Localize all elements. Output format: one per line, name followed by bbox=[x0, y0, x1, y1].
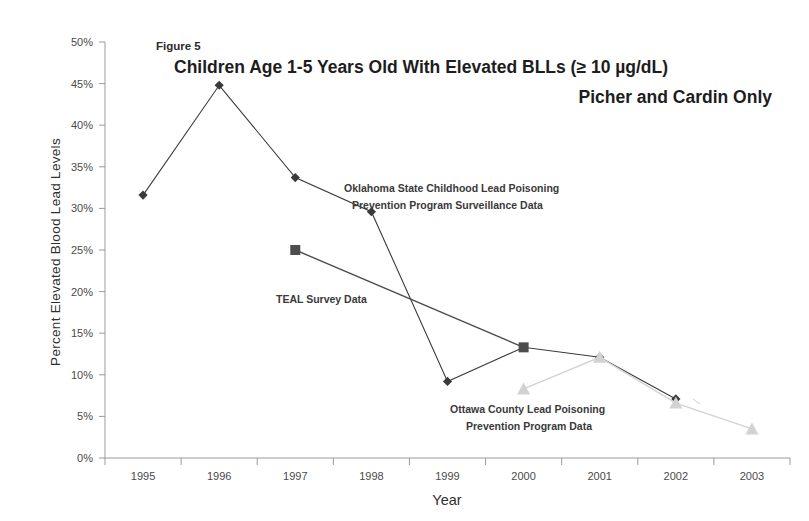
x-axis-tick-labels: 199519961997199819992000200120022003 bbox=[131, 470, 764, 482]
y-tick-label: 15% bbox=[71, 327, 93, 339]
chart-canvas: 0%5%10%15%20%25%30%35%40%45%50% 19951996… bbox=[0, 0, 809, 521]
x-tick-label: 2000 bbox=[511, 470, 535, 482]
ottawa-leader-line bbox=[693, 399, 700, 404]
data-point-marker bbox=[290, 245, 300, 255]
y-tick-label: 50% bbox=[71, 36, 93, 48]
figure-page: 0%5%10%15%20%25%30%35%40%45%50% 19951996… bbox=[0, 0, 809, 521]
x-tick-label: 1998 bbox=[359, 470, 383, 482]
annotation-oklahoma-line2: Prevention Program Surveillance Data bbox=[352, 199, 543, 211]
y-tick-label: 20% bbox=[71, 286, 93, 298]
x-tick-label: 1999 bbox=[435, 470, 459, 482]
series-line bbox=[143, 85, 676, 399]
y-tick-label: 0% bbox=[77, 452, 93, 464]
x-axis-ticks bbox=[105, 458, 790, 465]
series-layer bbox=[138, 81, 758, 435]
y-tick-label: 25% bbox=[71, 244, 93, 256]
annotation-oklahoma-line1: Oklahoma State Childhood Lead Poisoning bbox=[344, 182, 559, 194]
y-tick-label: 10% bbox=[71, 369, 93, 381]
y-tick-label: 5% bbox=[77, 410, 93, 422]
x-tick-label: 2002 bbox=[664, 470, 688, 482]
x-tick-label: 2003 bbox=[740, 470, 764, 482]
figure-subtitle: Picher and Cardin Only bbox=[578, 87, 772, 107]
y-axis-ticks bbox=[99, 42, 105, 458]
x-tick-label: 1996 bbox=[207, 470, 231, 482]
data-point-marker bbox=[669, 397, 682, 409]
figure-title: Children Age 1-5 Years Old With Elevated… bbox=[174, 57, 668, 77]
series-line bbox=[524, 357, 752, 429]
figure-number: Figure 5 bbox=[156, 40, 201, 52]
annotation-ottawa-line2: Prevention Program Data bbox=[466, 420, 592, 432]
data-point-marker bbox=[443, 377, 452, 386]
x-tick-label: 1997 bbox=[283, 470, 307, 482]
annotation-ottawa-line1: Ottawa County Lead Poisoning bbox=[450, 403, 605, 415]
x-axis-title: Year bbox=[432, 492, 461, 508]
y-tick-label: 40% bbox=[71, 119, 93, 131]
data-point-marker bbox=[745, 422, 758, 434]
y-axis-title: Percent Elevated Blood Lead Levels bbox=[48, 138, 63, 366]
annotation-teal: TEAL Survey Data bbox=[276, 293, 367, 305]
y-axis-tick-labels: 0%5%10%15%20%25%30%35%40%45%50% bbox=[71, 36, 93, 464]
y-tick-label: 45% bbox=[71, 78, 93, 90]
data-point-marker bbox=[519, 342, 529, 352]
y-tick-label: 35% bbox=[71, 161, 93, 173]
data-point-marker bbox=[138, 190, 147, 199]
data-point-marker bbox=[517, 382, 530, 394]
x-tick-label: 1995 bbox=[131, 470, 155, 482]
y-tick-label: 30% bbox=[71, 202, 93, 214]
x-tick-label: 2001 bbox=[587, 470, 611, 482]
